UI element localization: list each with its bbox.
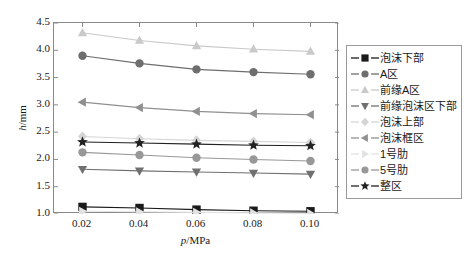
data-series [78, 28, 315, 55]
legend-item[interactable]: 1号肋 [350, 146, 458, 162]
data-point-marker [249, 155, 257, 163]
plot-series-svg [54, 23, 339, 214]
data-point-marker [78, 148, 86, 156]
data-point-marker [361, 70, 368, 77]
data-point-marker [78, 52, 86, 60]
data-point-marker [361, 54, 368, 61]
data-point-marker [361, 134, 368, 142]
y-axis-title-unit: /mm [16, 105, 28, 125]
data-series [78, 52, 314, 79]
axis-ticks [54, 23, 339, 214]
x-axis-tick-label: 0.06 [174, 217, 218, 229]
legend-marker-star-icon [350, 179, 380, 193]
legend-marker-circle-icon [350, 67, 380, 81]
legend-item[interactable]: 泡沫框区 [350, 130, 458, 146]
legend-marker-triangle-right-icon [350, 147, 380, 161]
data-point-marker [77, 136, 88, 146]
data-point-marker [306, 47, 315, 55]
data-point-marker [306, 110, 314, 119]
legend-item-label: 整区 [380, 179, 402, 193]
x-axis-tick-label: 0.04 [117, 217, 161, 229]
plot-area [53, 22, 338, 213]
legend-marker-circle-icon [350, 163, 380, 177]
y-axis-title: h/mm [16, 88, 28, 148]
data-point-marker [78, 28, 87, 36]
legend-item[interactable]: 泡沫上部 [350, 114, 458, 130]
legend-item-label: 泡沫上部 [380, 115, 424, 129]
data-point-marker [249, 68, 257, 76]
data-point-marker [306, 157, 314, 165]
data-point-marker [78, 166, 87, 174]
y-axis-tick-label: 1.5 [16, 180, 50, 191]
data-point-marker [249, 170, 258, 178]
y-axis-tick-label: 3.5 [16, 71, 50, 82]
legend-marker-diamond-icon [350, 115, 380, 129]
legend-item[interactable]: 5号肋 [350, 162, 458, 178]
legend-marker-square-icon [350, 51, 380, 65]
y-axis-title-variable: h [16, 125, 28, 131]
legend-marker-triangle-up-icon [350, 83, 380, 97]
y-axis-tick-label: 4.5 [16, 16, 50, 27]
x-axis-tick-label: 0.10 [288, 217, 332, 229]
x-axis-title: p/MPa [53, 234, 338, 246]
data-point-marker [249, 109, 257, 118]
legend-item[interactable]: 整区 [350, 178, 458, 194]
data-point-marker [135, 151, 143, 159]
chart-figure: 1.01.52.02.53.03.54.04.5 h/mm 0.020.040.… [0, 0, 471, 275]
data-point-marker [360, 181, 369, 190]
legend-item-label: A区 [380, 67, 398, 81]
data-point-marker [192, 169, 201, 177]
legend-item[interactable]: 前缘泡沫区下部 [350, 98, 458, 114]
legend-item-label: 1号肋 [380, 147, 408, 161]
legend-item-label: 前缘泡沫区下部 [380, 99, 457, 113]
data-point-marker [135, 59, 143, 67]
legend-item[interactable]: 泡沫下部 [350, 50, 458, 66]
legend-item-label: 泡沫下部 [380, 51, 424, 65]
data-point-marker [192, 154, 200, 162]
legend-item[interactable]: A区 [350, 66, 458, 82]
chart-legend: 泡沫下部A区前缘A区前缘泡沫区下部泡沫上部泡沫框区1号肋5号肋整区 [346, 45, 462, 199]
legend-item-label: 泡沫框区 [380, 131, 424, 145]
data-point-marker [361, 166, 368, 173]
data-point-marker [361, 118, 369, 127]
legend-item[interactable]: 前缘A区 [350, 82, 458, 98]
data-point-marker [78, 98, 86, 107]
data-point-marker [135, 103, 143, 112]
x-axis-tick-label: 0.08 [231, 217, 275, 229]
data-point-marker [361, 103, 369, 110]
legend-item-label: 前缘A区 [380, 83, 420, 97]
data-point-marker [306, 70, 314, 78]
data-point-marker [361, 86, 369, 93]
data-series [78, 98, 314, 120]
legend-marker-triangle-down-icon [350, 99, 380, 113]
data-point-marker [192, 65, 200, 73]
x-axis-tick-labels: 0.020.040.060.080.10 [0, 217, 400, 233]
data-point-marker [192, 107, 200, 116]
data-point-marker [362, 150, 369, 158]
data-point-marker [135, 168, 144, 176]
data-series [78, 148, 314, 165]
data-point-marker [306, 171, 315, 179]
legend-marker-triangle-left-icon [350, 131, 380, 145]
x-axis-title-unit: /MPa [186, 234, 210, 246]
y-axis-tick-label: 4.0 [16, 43, 50, 54]
legend-item-label: 5号肋 [380, 163, 408, 177]
y-axis-tick-label: 2.0 [16, 152, 50, 163]
x-axis-tick-label: 0.02 [60, 217, 104, 229]
data-series [78, 166, 315, 179]
